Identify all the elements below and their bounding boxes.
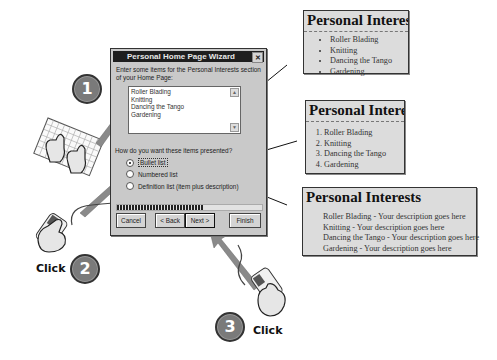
scroll-down-button[interactable]: ▼ (230, 123, 239, 132)
wizard-dialog: Personal Home Page Wizard ✕ Enter some i… (110, 48, 267, 236)
list-item: Roller Blading (131, 88, 238, 96)
click-label-step-3: Click (253, 324, 282, 337)
next-button[interactable]: Next > (185, 213, 215, 228)
step-3-badge: 3 (215, 312, 245, 342)
numbered-list: Roller Blading Knitting Dancing the Tang… (306, 128, 404, 170)
click-label-step-2: Click (36, 262, 65, 275)
radio-label: Definition list (item plus description) (138, 183, 239, 190)
list-item: Gardening - Your description goes here (323, 244, 476, 255)
dialog-titlebar: Personal Home Page Wizard ✕ (113, 51, 264, 62)
radio-definition-list[interactable]: Definition list (item plus description) (126, 182, 239, 190)
numbered-list-preview: Personal Interests Roller Blading Knitti… (305, 100, 405, 174)
progress-fill (117, 205, 204, 210)
radio-button[interactable] (126, 170, 134, 178)
back-button[interactable]: < Back (155, 213, 185, 228)
preview-heading: Personal Interests (304, 11, 408, 32)
radio-button-selected[interactable] (126, 159, 134, 167)
close-icon: ✕ (255, 54, 261, 61)
list-item: Gardening (330, 67, 408, 78)
step-1-badge: 1 (72, 74, 102, 104)
interests-textbox[interactable]: Roller Blading Knitting Dancing the Tang… (128, 86, 241, 134)
clicking-hand-icon-2 (38, 220, 65, 253)
radio-label: Bullet list (138, 158, 168, 167)
radio-button[interactable] (126, 182, 134, 190)
radio-numbered-list[interactable]: Numbered list (126, 170, 177, 178)
list-item: Knitting - Your description goes here (323, 223, 476, 234)
bullet-list: Roller Blading Knitting Dancing the Tang… (304, 35, 408, 77)
definition-list: Roller Blading - Your description goes h… (303, 212, 476, 254)
intro-text: Enter some items for the Personal Intere… (116, 66, 262, 82)
preview-heading: Personal Interests (306, 101, 404, 122)
list-item: Dancing the Tango - Your description goe… (323, 233, 476, 244)
list-item: Dancing the Tango (330, 56, 408, 67)
radio-bullet-list[interactable]: Bullet list (126, 158, 168, 167)
list-item: Roller Blading (330, 35, 408, 46)
list-item: Gardening (131, 111, 238, 119)
finish-button[interactable]: Finish (229, 213, 261, 228)
list-item: Roller Blading (324, 128, 404, 139)
list-item: Knitting (324, 139, 404, 150)
list-item: Dancing the Tango (324, 149, 404, 160)
bullet-list-preview: Personal Interests Roller Blading Knitti… (303, 10, 409, 74)
radio-label: Numbered list (138, 171, 177, 178)
list-item: Knitting (131, 96, 238, 104)
definition-list-preview: Personal Interests Roller Blading - Your… (302, 187, 477, 256)
scroll-up-button[interactable]: ▲ (230, 88, 239, 97)
close-button[interactable]: ✕ (252, 52, 263, 63)
cancel-button[interactable]: Cancel (116, 213, 146, 228)
list-item: Dancing the Tango (131, 103, 238, 111)
preview-heading: Personal Interests (303, 188, 476, 208)
list-item: Knitting (330, 46, 408, 57)
progress-bar (116, 204, 263, 211)
dialog-title: Personal Home Page Wizard (127, 52, 235, 61)
list-item: Roller Blading - Your description goes h… (323, 212, 476, 223)
presentation-question: How do you want these items presented? (115, 147, 232, 154)
list-item: Gardening (324, 160, 404, 171)
step-2-badge: 2 (70, 254, 100, 284)
